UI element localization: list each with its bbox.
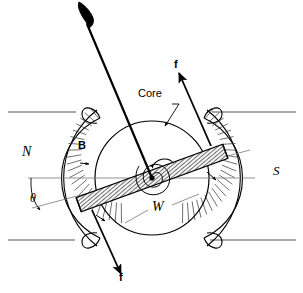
theta-angle-label: θ — [30, 192, 36, 204]
force-vector-top — [179, 73, 211, 146]
north-pole-label: N — [22, 145, 31, 159]
force-vector-bottom — [92, 210, 121, 274]
force-bottom-label: f — [119, 272, 123, 283]
pointer-spear-tip — [78, 2, 93, 28]
galvanometer-diagram — [0, 0, 303, 293]
coil-width-label: W — [152, 200, 164, 214]
leader-lines — [165, 104, 179, 126]
south-pole-label: S — [273, 164, 280, 177]
w-leader-left — [125, 210, 148, 223]
force-top-label: f — [174, 59, 178, 70]
core-leader-line — [165, 104, 179, 126]
figure-canvas: Core N S B W θ f f — [0, 0, 303, 293]
B-field-direction-arrow — [80, 163, 89, 164]
w-leader-right — [172, 194, 199, 205]
field-direction-arrow-right — [207, 172, 216, 180]
core-label: Core — [138, 88, 162, 99]
flux-density-label: B — [78, 140, 86, 151]
